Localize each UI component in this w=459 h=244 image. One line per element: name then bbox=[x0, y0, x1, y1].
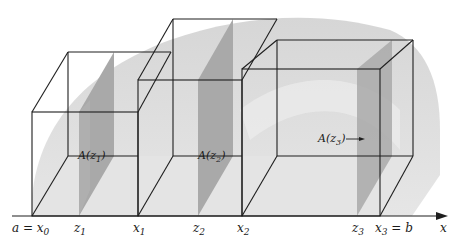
tick-label-x0: a = x0 bbox=[12, 221, 50, 237]
cross-section-label-2: A(z2) bbox=[197, 149, 225, 164]
tick-label-z1: z1 bbox=[73, 221, 86, 237]
tick-label-x2: x2 bbox=[237, 221, 250, 237]
axis-arrow-icon bbox=[436, 212, 448, 220]
cross-section-label-1: A(z1) bbox=[77, 149, 105, 164]
tick-label-x1: x1 bbox=[133, 221, 146, 237]
axis-label-x: x bbox=[440, 221, 447, 235]
volume-by-slicing-diagram: A(z1) A(z2) A(z3) a = x0 z1 x1 z2 x2 z3 … bbox=[0, 0, 459, 244]
tick-label-x3: x3 = b bbox=[375, 221, 413, 237]
cross-section-label-3: A(z3) bbox=[317, 132, 345, 147]
tick-label-z2: z2 bbox=[192, 221, 205, 237]
tick-label-z3: z3 bbox=[351, 221, 364, 237]
